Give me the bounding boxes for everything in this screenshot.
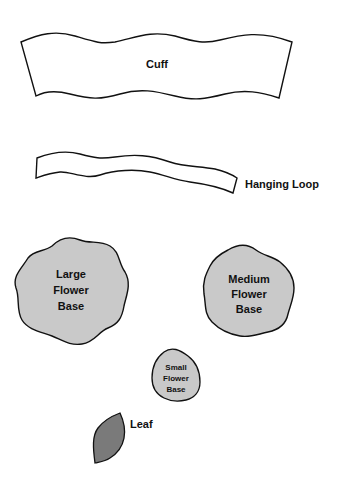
- small-flower-base-piece: Small Flower Base: [152, 349, 200, 401]
- small-flower-base-label-1: Small: [165, 363, 186, 372]
- large-flower-base-piece: Large Flower Base: [15, 238, 128, 344]
- leaf-label: Leaf: [130, 418, 153, 430]
- large-flower-base-label-1: Large: [56, 268, 86, 280]
- pattern-sheet: Cuff Hanging Loop Large Flower Base Medi…: [0, 0, 347, 486]
- cuff-label: Cuff: [146, 58, 168, 70]
- cuff-piece: Cuff: [21, 33, 292, 99]
- small-flower-base-label-2: Flower: [163, 374, 189, 383]
- medium-flower-base-piece: Medium Flower Base: [203, 246, 294, 337]
- large-flower-base-label-3: Base: [58, 300, 84, 312]
- small-flower-base-label-3: Base: [166, 385, 186, 394]
- medium-flower-base-label-1: Medium: [228, 273, 270, 285]
- medium-flower-base-label-2: Flower: [231, 288, 267, 300]
- large-flower-base-label-2: Flower: [53, 284, 89, 296]
- medium-flower-base-label-3: Base: [236, 303, 262, 315]
- hanging-loop-label: Hanging Loop: [245, 178, 319, 190]
- hanging-loop-piece: [36, 152, 237, 193]
- leaf-piece: [93, 413, 124, 463]
